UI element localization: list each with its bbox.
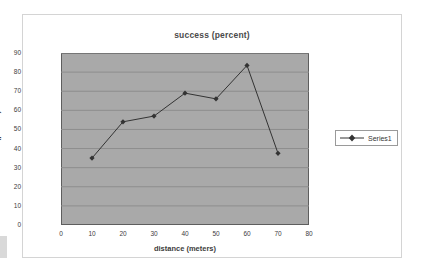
x-tick-label: 50 <box>212 229 219 239</box>
scan-edge-artifact <box>0 236 7 258</box>
x-tick-label: 60 <box>243 229 250 239</box>
chart-frame: success (percent) Succes (percent) 01020… <box>22 14 402 258</box>
y-tick-label: 70 <box>1 88 21 95</box>
plot-wrapper: 01020304050607080 distance (meters) <box>61 53 309 225</box>
x-tick-label: 0 <box>59 229 63 239</box>
x-tick-label: 40 <box>181 229 188 239</box>
y-tick-label: 10 <box>1 203 21 210</box>
x-axis-title: distance (meters) <box>61 244 309 253</box>
chart-title: success (percent) <box>23 30 401 40</box>
y-tick-label: 60 <box>1 107 21 114</box>
y-tick-label: 20 <box>1 184 21 191</box>
x-tick-label: 30 <box>150 229 157 239</box>
data-point-marker <box>275 151 280 156</box>
y-tick-label: 50 <box>1 126 21 133</box>
x-tick-label: 70 <box>274 229 281 239</box>
y-tick-label: 90 <box>1 50 21 57</box>
series-plot <box>61 53 309 225</box>
legend[interactable]: Series1 <box>335 130 398 146</box>
x-tick-label: 20 <box>119 229 126 239</box>
y-axis-tick-labels: 0102030405060708090 <box>1 53 21 225</box>
y-tick-label: 0 <box>1 222 21 229</box>
x-tick-label: 80 <box>305 229 312 239</box>
y-tick-label: 80 <box>1 69 21 76</box>
y-tick-label: 30 <box>1 164 21 171</box>
series-line <box>92 65 278 158</box>
x-axis-tick-labels: 01020304050607080 <box>61 229 309 241</box>
y-tick-label: 40 <box>1 145 21 152</box>
x-tick-label: 10 <box>88 229 95 239</box>
diamond-marker-icon <box>339 134 365 142</box>
legend-entry-label: Series1 <box>368 135 392 142</box>
